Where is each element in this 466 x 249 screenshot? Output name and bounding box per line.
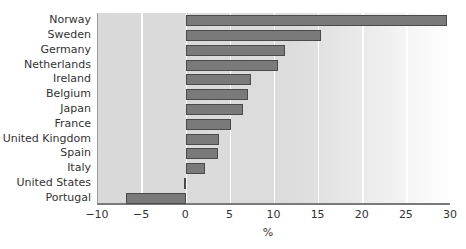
bar bbox=[186, 163, 205, 174]
x-axis-title: % bbox=[263, 226, 273, 239]
bar bbox=[186, 119, 231, 130]
gridline bbox=[274, 13, 276, 203]
category-label: Portugal bbox=[45, 191, 91, 205]
bar bbox=[186, 134, 219, 145]
category-label: Japan bbox=[60, 102, 91, 116]
category-label: Belgium bbox=[46, 87, 91, 101]
bar bbox=[186, 30, 321, 41]
category-label: United Kingdom bbox=[3, 132, 91, 146]
bar bbox=[186, 74, 250, 85]
x-tick-label: 15 bbox=[311, 208, 325, 221]
bar bbox=[186, 148, 218, 159]
category-label: Spain bbox=[60, 146, 91, 160]
bar bbox=[184, 178, 187, 189]
category-label: Norway bbox=[49, 13, 91, 27]
x-tick-label: 5 bbox=[226, 208, 233, 221]
bar bbox=[186, 15, 447, 26]
x-tick-label: 0 bbox=[182, 208, 189, 221]
plot-area bbox=[97, 13, 450, 205]
category-label: Germany bbox=[40, 43, 91, 57]
gridline bbox=[141, 13, 143, 203]
x-tick-label: −10 bbox=[85, 208, 108, 221]
bar bbox=[186, 104, 242, 115]
gridline bbox=[450, 13, 452, 203]
category-label: Ireland bbox=[53, 72, 91, 86]
category-label: France bbox=[54, 117, 91, 131]
x-tick-label: 10 bbox=[267, 208, 281, 221]
category-label: Sweden bbox=[48, 28, 91, 42]
bar-chart: NorwaySwedenGermanyNetherlandsIrelandBel… bbox=[0, 0, 466, 249]
x-tick-label: 30 bbox=[443, 208, 457, 221]
category-label: Italy bbox=[67, 161, 91, 175]
bar bbox=[126, 193, 186, 204]
bar bbox=[186, 45, 285, 56]
gridline bbox=[362, 13, 364, 203]
bar bbox=[186, 60, 278, 71]
category-label: United States bbox=[17, 176, 92, 190]
x-tick-label: −5 bbox=[133, 208, 149, 221]
category-label: Netherlands bbox=[24, 58, 91, 72]
x-tick-label: 20 bbox=[355, 208, 369, 221]
gridline bbox=[406, 13, 408, 203]
bar bbox=[186, 89, 248, 100]
x-tick-label: 25 bbox=[399, 208, 413, 221]
gridline bbox=[318, 13, 320, 203]
